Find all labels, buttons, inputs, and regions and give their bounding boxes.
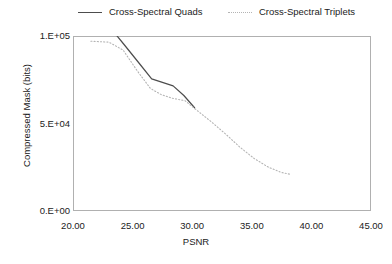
x-tick-label-5: 45.00 bbox=[341, 220, 392, 231]
series-line-1 bbox=[91, 41, 290, 174]
chart-figure: Cross-Spectral Quads Cross-Spectral Trip… bbox=[0, 0, 392, 264]
x-axis-title: PSNR bbox=[0, 236, 392, 247]
legend-label-quads: Cross-Spectral Quads bbox=[109, 6, 202, 18]
dotted-line-swatch-icon bbox=[228, 12, 252, 13]
legend-label-triplets: Cross-Spectral Triplets bbox=[259, 6, 355, 18]
legend-item-cross-spectral-quads: Cross-Spectral Quads bbox=[78, 6, 202, 18]
x-tick-label-0: 20.00 bbox=[43, 220, 103, 231]
series-line-0 bbox=[96, 36, 195, 108]
x-tick-label-3: 35.00 bbox=[222, 220, 282, 231]
x-tick-label-1: 25.00 bbox=[103, 220, 163, 231]
y-axis-title: Compressed Mask (bits) bbox=[21, 36, 32, 196]
x-tick-label-4: 40.00 bbox=[281, 220, 341, 231]
solid-line-swatch-icon bbox=[78, 12, 102, 13]
plot-lines bbox=[73, 36, 371, 211]
x-tick-label-2: 30.00 bbox=[162, 220, 222, 231]
legend-item-cross-spectral-triplets: Cross-Spectral Triplets bbox=[228, 6, 355, 18]
y-tick-label-0: 0.E+00 bbox=[24, 205, 70, 216]
